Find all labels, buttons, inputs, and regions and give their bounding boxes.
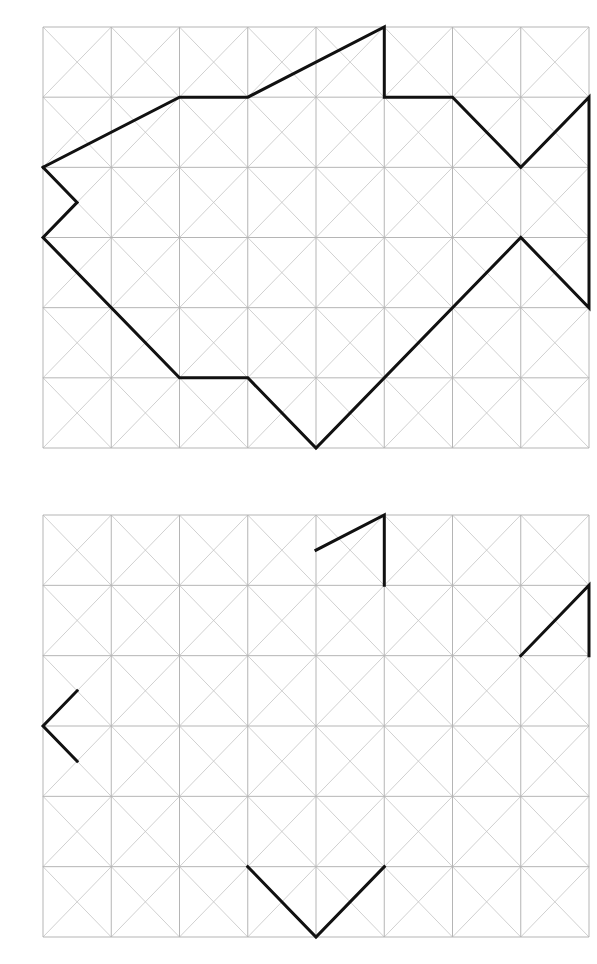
model-grid-lines: [43, 27, 589, 448]
copy-grid-lines: [43, 515, 589, 937]
copy-grid: [43, 515, 589, 937]
model-grid: [43, 27, 589, 448]
worksheet-canvas: [0, 0, 597, 964]
